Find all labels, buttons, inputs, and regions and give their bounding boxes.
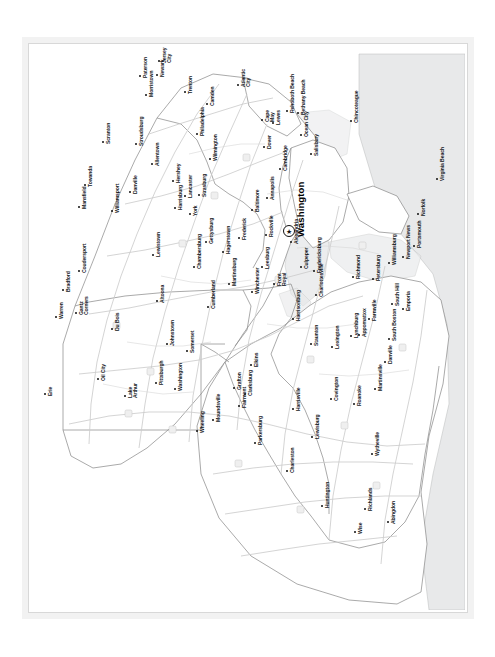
capital-marker-washington[interactable]: ★ [283,225,295,237]
map-geometry: .water{fill:#e8e9ea;stroke:#b9babb;strok… [29,44,465,610]
map-canvas: .water{fill:#e8e9ea;stroke:#b9babb;strok… [29,44,465,610]
scanned-map-page: .water{fill:#e8e9ea;stroke:#b9babb;strok… [0,0,495,657]
star-icon: ★ [286,228,292,235]
map-page-frame: .water{fill:#e8e9ea;stroke:#b9babb;strok… [28,43,468,613]
